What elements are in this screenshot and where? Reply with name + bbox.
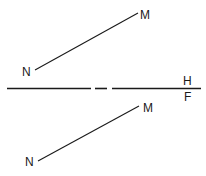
label-h: H bbox=[183, 74, 192, 88]
label-n-front: N bbox=[25, 155, 34, 169]
line-mn-front-view bbox=[38, 106, 139, 161]
label-f: F bbox=[184, 90, 191, 104]
label-m-top: M bbox=[140, 8, 150, 22]
descriptive-geometry-diagram: N M H F N M bbox=[0, 0, 206, 176]
line-mn-top-view bbox=[35, 13, 138, 70]
label-n-top: N bbox=[22, 65, 31, 79]
label-m-front: M bbox=[143, 101, 153, 115]
